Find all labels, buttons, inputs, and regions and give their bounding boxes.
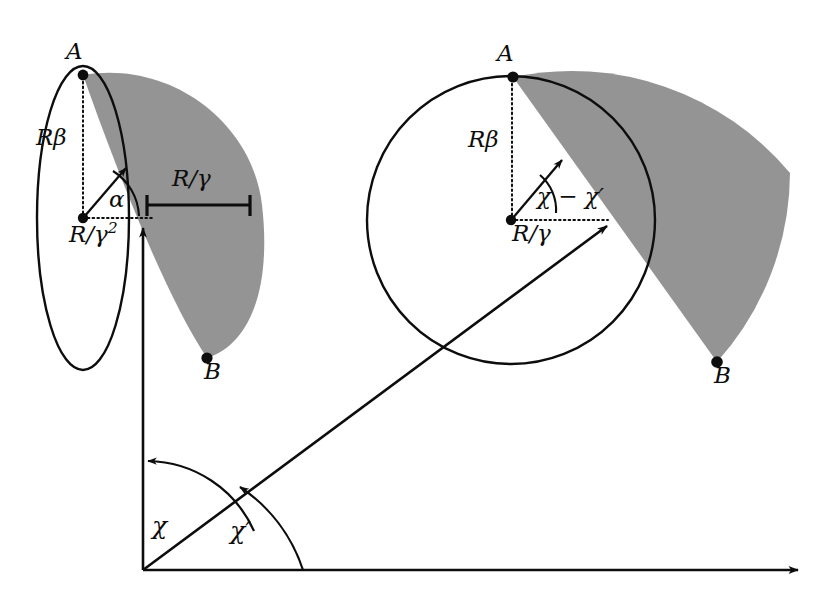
left-point-a-label: A — [66, 40, 83, 63]
right-point-a-label: A — [497, 42, 514, 65]
left-point-b-label: B — [204, 360, 221, 383]
left-shaded-region — [83, 73, 264, 358]
right-point-b-label: B — [714, 364, 731, 387]
chi-prime-label: χ′ — [230, 518, 251, 543]
right-point-a-marker — [507, 71, 518, 82]
right-shaded-region — [513, 71, 790, 362]
left-rbeta-label: Rβ — [36, 126, 67, 149]
chi-label: χ — [152, 513, 167, 538]
right-angle-difference-label: χ − χ′ — [537, 185, 604, 208]
left-rgamma-squared-label: R/γ2 — [69, 220, 118, 246]
right-rgamma-label: R/γ — [512, 222, 551, 245]
diagram-canvas — [0, 0, 830, 598]
left-alpha-label: α — [109, 188, 125, 211]
left-point-a-marker — [78, 70, 89, 81]
left-rgamma-label: R/γ — [172, 167, 211, 190]
left-rgamma-squared-base: R/γ — [69, 221, 108, 247]
left-rgamma-squared-exponent: 2 — [108, 218, 118, 237]
right-rbeta-label: Rβ — [468, 128, 499, 151]
geometry-figure: A B Rβ R/γ R/γ2 α A B Rβ R/γ χ − χ′ χ χ′ — [0, 0, 830, 598]
